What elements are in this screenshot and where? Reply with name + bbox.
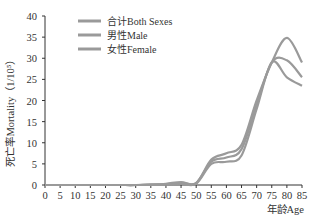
x-tick-label: 65 [236, 190, 247, 201]
x-tick-label: 15 [85, 190, 96, 201]
x-tick-label: 5 [57, 190, 62, 201]
x-tick-label: 55 [206, 190, 217, 201]
legend-label: 男性Male [107, 29, 148, 41]
y-tick-label: 15 [27, 117, 38, 128]
x-tick-label: 35 [146, 190, 157, 201]
x-tick-label: 85 [297, 190, 308, 201]
y-tick-label: 30 [27, 53, 38, 64]
y-tick-label: 25 [27, 74, 38, 85]
x-tick-label: 25 [115, 190, 126, 201]
y-tick-label: 20 [27, 96, 38, 107]
y-tick-label: 35 [27, 32, 38, 43]
x-tick-label: 30 [130, 190, 141, 201]
series-line [45, 38, 302, 185]
chart-canvas: 0510152025303540051015202530354045505560… [0, 0, 317, 218]
x-tick-label: 70 [251, 190, 262, 201]
y-tick-label: 5 [32, 159, 37, 170]
y-tick-label: 40 [27, 11, 38, 22]
x-tick-label: 20 [100, 190, 111, 201]
x-tick-label: 50 [191, 190, 202, 201]
mortality-chart: 0510152025303540051015202530354045505560… [0, 0, 317, 218]
series-line [45, 58, 302, 185]
x-tick-label: 60 [221, 190, 232, 201]
x-tick-label: 45 [176, 190, 187, 201]
legend-label: 合计Both Sexes [107, 15, 172, 27]
x-axis-label: 年龄Age [267, 203, 305, 215]
x-tick-label: 10 [70, 190, 81, 201]
x-tick-label: 0 [42, 190, 47, 201]
legend-label: 女性Female [107, 43, 157, 55]
y-tick-label: 10 [27, 138, 38, 149]
y-axis-label: 死亡率Mortality（1/10⁵） [4, 55, 16, 167]
x-tick-label: 40 [161, 190, 172, 201]
x-tick-label: 80 [282, 190, 293, 201]
x-tick-label: 75 [267, 190, 278, 201]
y-tick-label: 0 [32, 180, 37, 191]
